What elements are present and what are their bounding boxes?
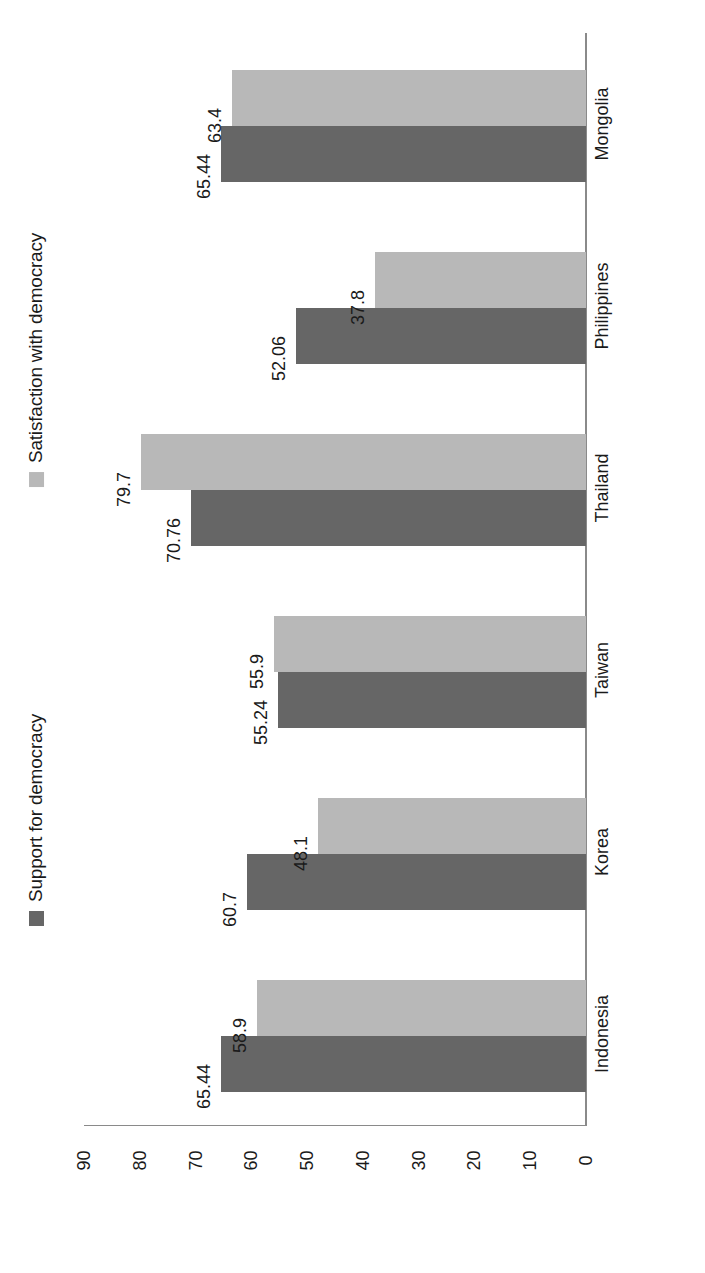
bar-thailand-support[interactable] [191,490,586,546]
bar-thailand-satisfaction[interactable] [141,434,586,490]
bar-philippines-support[interactable] [296,308,586,364]
bar-taiwan-support[interactable] [278,672,586,728]
bar-indonesia-support[interactable] [221,1036,586,1092]
bar-value-mongolia-satisfaction: 63.4 [205,108,226,143]
value-tick-label-0: 0 [576,1141,597,1181]
bar-korea-satisfaction[interactable] [318,798,586,854]
legend-swatch-satisfaction-icon [29,472,44,487]
category-label-mongolia: Mongolia [592,87,613,160]
bar-mongolia-satisfaction[interactable] [232,70,586,126]
bar-value-indonesia-satisfaction: 58.9 [230,1018,251,1053]
bar-value-philippines-support: 52.06 [269,336,290,381]
legend-swatch-support-icon [29,911,44,926]
bar-value-taiwan-support: 55.24 [251,700,272,745]
value-tick-label-90: 90 [74,1141,95,1181]
bar-value-thailand-satisfaction: 79.7 [114,472,135,507]
value-tick-label-50: 50 [297,1141,318,1181]
legend-item-satisfaction-with-democracy[interactable]: Satisfaction with democracy [0,180,72,540]
category-axis-line [84,1125,587,1126]
bar-value-indonesia-support: 65.44 [194,1064,215,1109]
legend-item-support-for-democracy[interactable]: Support for democracy [0,640,72,1000]
value-tick-label-30: 30 [408,1141,429,1181]
value-tick-label-10: 10 [520,1141,541,1181]
chart-figure: Satisfaction with democracy Support for … [0,0,705,1273]
legend-label-satisfaction: Satisfaction with democracy [25,233,47,463]
value-tick-label-20: 20 [464,1141,485,1181]
chart-legend: Satisfaction with democracy Support for … [0,0,72,1120]
bar-mongolia-support[interactable] [221,126,586,182]
bar-value-taiwan-satisfaction: 55.9 [247,654,268,689]
value-tick-label-60: 60 [241,1141,262,1181]
value-tick-label-70: 70 [185,1141,206,1181]
bar-value-korea-support: 60.7 [220,892,241,927]
value-tick-label-80: 80 [129,1141,150,1181]
bar-value-mongolia-support: 65.44 [194,154,215,199]
category-label-thailand: Thailand [592,453,613,522]
bar-indonesia-satisfaction[interactable] [257,980,586,1036]
bar-value-philippines-satisfaction: 37.8 [348,290,369,325]
bar-value-thailand-support: 70.76 [164,518,185,563]
bar-taiwan-satisfaction[interactable] [274,616,586,672]
plot-area: 65.4458.960.748.155.2455.970.7679.752.06… [84,33,586,1125]
bar-philippines-satisfaction[interactable] [375,252,586,308]
category-label-philippines: Philippines [592,262,613,349]
bar-value-korea-satisfaction: 48.1 [291,836,312,871]
value-axis-zero-line [585,33,587,1125]
value-tick-label-40: 40 [352,1141,373,1181]
category-label-indonesia: Indonesia [592,995,613,1073]
category-label-taiwan: Taiwan [592,642,613,698]
category-label-korea: Korea [592,828,613,876]
legend-label-support: Support for democracy [25,714,47,902]
